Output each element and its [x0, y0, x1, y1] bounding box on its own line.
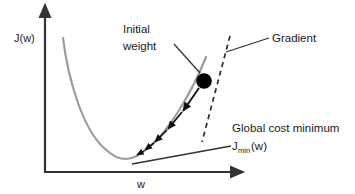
initial-weight-label-line1: Initial [123, 23, 150, 35]
x-axis-label: w [136, 178, 145, 190]
jmin-label: J min (w) [232, 140, 267, 155]
jmin-subscript: min [238, 146, 250, 155]
descent-step-arrow-3 [155, 130, 167, 142]
descent-step-arrows [137, 88, 199, 155]
gradient-label: Gradient [272, 32, 317, 44]
gradient-leader-line [226, 38, 269, 52]
jmin-tail: (w) [251, 140, 267, 152]
gradient-tangent-line [202, 36, 230, 142]
y-axis-label: J(w) [14, 32, 35, 44]
gradient-descent-figure: J(w) w Initial weight Gradient Global co… [0, 0, 355, 194]
descent-step-arrow-2 [168, 112, 182, 129]
jmin-base: J [232, 140, 238, 152]
initial-weight-point [196, 73, 212, 89]
initial-weight-label-line2: weight [122, 40, 157, 52]
initial-weight-leader-line [174, 44, 200, 73]
descent-step-arrow-4 [145, 143, 154, 150]
global-minimum-label: Global cost minimum [232, 122, 339, 134]
